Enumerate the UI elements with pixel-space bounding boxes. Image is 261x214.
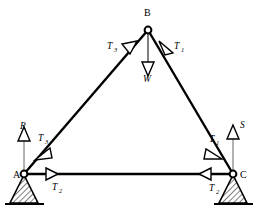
force-label-T3-top-letter: T bbox=[107, 41, 113, 51]
force-label-R: R bbox=[19, 121, 26, 131]
force-label-T3-bottom: T 3 bbox=[38, 133, 49, 145]
force-label-T3-bottom-sub: 3 bbox=[44, 138, 49, 145]
joint-circle-A bbox=[21, 171, 28, 178]
force-label-T3-top: T 3 bbox=[107, 41, 118, 53]
truss-free-body-diagram: A B C W R S T 1 T 3 T 3 T 1 T 2 T 2 bbox=[0, 0, 261, 214]
force-label-T2-right-letter: T bbox=[209, 183, 215, 193]
arrowhead-T2-left bbox=[199, 168, 211, 180]
arrowhead-T2-right bbox=[46, 168, 58, 180]
force-label-T1-top: T 1 bbox=[174, 41, 184, 53]
node-label-A: A bbox=[13, 169, 21, 180]
force-label-S: S bbox=[240, 120, 245, 130]
force-label-T3-bottom-letter: T bbox=[38, 133, 44, 143]
force-label-T2-right: T 2 bbox=[209, 183, 220, 195]
force-label-T1-top-letter: T bbox=[174, 41, 180, 51]
node-label-C: C bbox=[240, 169, 247, 180]
force-label-T2-right-sub: 2 bbox=[216, 188, 220, 195]
force-label-T1-bottom-sub: 1 bbox=[216, 139, 219, 146]
member-BC-right-rafter bbox=[148, 30, 233, 174]
arrowhead-S-up bbox=[227, 125, 239, 139]
force-label-T2-left-sub: 2 bbox=[59, 187, 63, 194]
truss-diagram-canvas: A B C W R S T 1 T 3 T 3 T 1 T 2 T 2 bbox=[0, 0, 261, 214]
joint-circle-B bbox=[145, 27, 152, 34]
force-label-T3-top-sub: 3 bbox=[113, 46, 118, 53]
joint-circle-C bbox=[230, 171, 237, 178]
force-label-T2-left: T 2 bbox=[52, 182, 63, 194]
force-label-T2-left-letter: T bbox=[52, 182, 58, 192]
force-label-T1-bottom-letter: T bbox=[209, 134, 215, 144]
force-label-W: W bbox=[143, 74, 152, 84]
support-A bbox=[5, 175, 44, 204]
arrowhead-T3-top bbox=[122, 41, 137, 54]
support-C bbox=[214, 175, 253, 204]
force-label-T1-top-sub: 1 bbox=[181, 46, 184, 53]
node-label-B: B bbox=[144, 7, 151, 18]
